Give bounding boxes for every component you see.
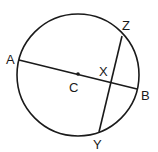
center-point-c [76,72,80,76]
circle-diagram: A Z X C B Y [0,0,158,152]
label-y: Y [93,137,102,152]
diagram-canvas: A Z X C B Y [0,0,158,152]
label-z: Z [122,18,130,33]
label-a: A [6,52,15,67]
label-x: X [99,64,108,79]
label-c: C [69,80,78,95]
label-b: B [141,88,150,103]
